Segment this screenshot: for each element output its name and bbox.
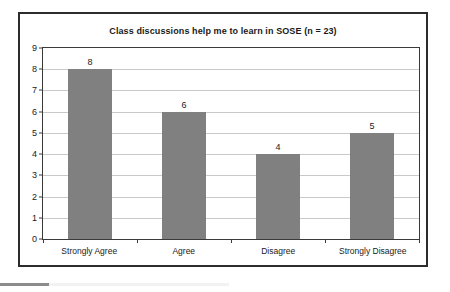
y-axis-tick-label: 2 — [32, 192, 37, 202]
y-axis-tick-label: 4 — [32, 149, 37, 159]
y-axis-tick-label: 1 — [32, 213, 37, 223]
bar[interactable] — [350, 133, 394, 239]
y-axis-tick-label: 8 — [32, 64, 37, 74]
x-axis-labels: Strongly AgreeAgreeDisagreeStrongly Disa… — [42, 246, 420, 256]
chart-frame: Class discussions help me to learn in SO… — [18, 12, 428, 267]
y-axis-tick-label: 5 — [32, 128, 37, 138]
bar-value-label: 5 — [325, 121, 419, 131]
plot-area: 9876543210 8645 — [42, 47, 420, 240]
y-axis-tick-label: 7 — [32, 85, 37, 95]
x-axis-category-label: Disagree — [231, 246, 326, 256]
bar-slot: 8 — [43, 48, 137, 239]
x-axis-category-label: Strongly Agree — [42, 246, 137, 256]
scrollbar-track-fragment[interactable] — [49, 283, 229, 286]
bar-value-label: 4 — [231, 142, 325, 152]
chart-title: Class discussions help me to learn in SO… — [20, 26, 426, 36]
bar-value-label: 8 — [43, 57, 137, 67]
scrollbar-thumb-fragment[interactable] — [0, 283, 49, 286]
bar-slot: 4 — [231, 48, 325, 239]
bar[interactable] — [162, 112, 206, 239]
x-axis-tick-mark — [419, 239, 420, 243]
x-axis-tick-mark — [325, 239, 326, 243]
bar[interactable] — [256, 154, 300, 239]
x-axis-ticks — [43, 239, 419, 243]
bar-slot: 6 — [137, 48, 231, 239]
x-axis-tick-mark — [137, 239, 138, 243]
y-axis-tick-label: 3 — [32, 170, 37, 180]
y-axis-tick-label: 6 — [32, 107, 37, 117]
x-axis-category-label: Agree — [137, 246, 232, 256]
y-axis-tick-label: 0 — [32, 234, 37, 244]
y-axis-tick-label: 9 — [32, 43, 37, 53]
bar-value-label: 6 — [137, 100, 231, 110]
bar[interactable] — [68, 69, 112, 239]
x-axis-tick-mark — [43, 239, 44, 243]
plot-wrapper: 9876543210 8645 Strongly AgreeAgreeDisag… — [42, 47, 420, 240]
x-axis-tick-mark — [231, 239, 232, 243]
x-axis-category-label: Strongly Disagree — [326, 246, 421, 256]
bar-slot: 5 — [325, 48, 419, 239]
bars-layer: 8645 — [43, 48, 419, 239]
